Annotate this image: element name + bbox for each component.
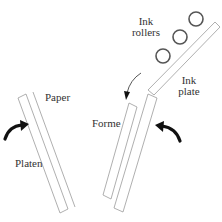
paper-line <box>33 92 75 207</box>
ink-roller-3 <box>189 12 203 26</box>
roller-arrow-icon <box>124 73 141 100</box>
label-ink-rollers: Ink rollers <box>131 16 161 38</box>
label-ink-plate-line2: plate <box>176 86 202 97</box>
label-platen: Platen <box>15 158 43 169</box>
label-paper: Paper <box>45 92 70 103</box>
diagram-canvas <box>0 0 222 222</box>
ink-roller-2 <box>173 30 187 44</box>
label-ink-rollers-line2: rollers <box>131 27 161 38</box>
platen-press-diagram: Paper Platen Forme Ink rollers Ink plate <box>0 0 222 222</box>
platen-arrow-icon <box>5 120 29 139</box>
platen-shape <box>18 94 68 213</box>
label-ink-plate: Ink plate <box>176 75 202 97</box>
forme-arrow-icon <box>155 121 180 141</box>
label-forme: Forme <box>92 118 121 129</box>
ink-roller-1 <box>156 49 170 63</box>
